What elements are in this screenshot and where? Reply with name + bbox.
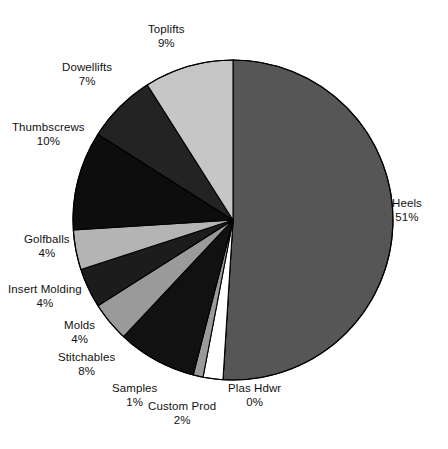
pie-label-heels: Heels51%	[392, 196, 422, 224]
pie-label-name-heels: Heels	[392, 196, 422, 210]
pie-label-name-thumbscrews: Thumbscrews	[12, 120, 85, 134]
pie-label-name-custom-prod: Custom Prod	[148, 399, 216, 413]
pie-label-name-golfballs: Golfballs	[24, 232, 70, 246]
pie-label-golfballs: Golfballs4%	[24, 232, 70, 260]
pie-label-dowellifts: Dowellifts7%	[62, 60, 112, 88]
pie-label-molds: Molds4%	[64, 318, 95, 346]
pie-label-stitchables: Stitchables8%	[58, 350, 115, 378]
pie-label-percent-golfballs: 4%	[24, 246, 70, 260]
pie-label-name-stitchables: Stitchables	[58, 350, 115, 364]
pie-label-name-dowellifts: Dowellifts	[62, 60, 112, 74]
pie-label-name-molds: Molds	[64, 318, 95, 332]
pie-label-percent-heels: 51%	[392, 210, 422, 224]
pie-chart: Toplifts9%Dowellifts7%Thumbscrews10%Golf…	[0, 0, 448, 449]
pie-label-percent-molds: 4%	[64, 332, 95, 346]
pie-slices	[73, 60, 393, 380]
pie-label-percent-toplifts: 9%	[148, 36, 185, 50]
pie-label-insert-molding: Insert Molding4%	[8, 282, 82, 310]
pie-label-toplifts: Toplifts9%	[148, 22, 185, 50]
pie-label-name-samples: Samples	[112, 381, 157, 395]
pie-label-custom-prod: Custom Prod2%	[148, 399, 216, 427]
pie-label-percent-stitchables: 8%	[58, 364, 115, 378]
pie-label-percent-thumbscrews: 10%	[12, 134, 85, 148]
pie-label-percent-custom-prod: 2%	[148, 413, 216, 427]
pie-label-percent-plas-hdwr: 0%	[228, 395, 281, 409]
pie-label-plas-hdwr: Plas Hdwr0%	[228, 381, 281, 409]
pie-label-name-plas-hdwr: Plas Hdwr	[228, 381, 281, 395]
pie-label-thumbscrews: Thumbscrews10%	[12, 120, 85, 148]
pie-label-name-insert-molding: Insert Molding	[8, 282, 82, 296]
pie-label-percent-insert-molding: 4%	[8, 296, 82, 310]
pie-label-percent-dowellifts: 7%	[62, 74, 112, 88]
pie-label-name-toplifts: Toplifts	[148, 22, 185, 36]
pie-slice-heels[interactable]	[223, 60, 393, 380]
